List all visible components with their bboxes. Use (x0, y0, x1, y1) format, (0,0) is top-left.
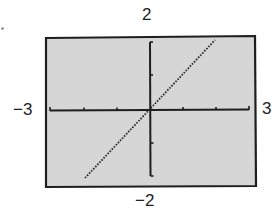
ymin-label: −2 (135, 192, 154, 209)
xmax-label: 3 (262, 100, 271, 117)
y-axis (150, 42, 151, 176)
xmin-label: −3 (13, 101, 32, 118)
plot-svg (0, 0, 278, 218)
ymax-label: 2 (142, 6, 151, 23)
graphing-calculator-screen: 2 −2 −3 3 (0, 0, 278, 218)
